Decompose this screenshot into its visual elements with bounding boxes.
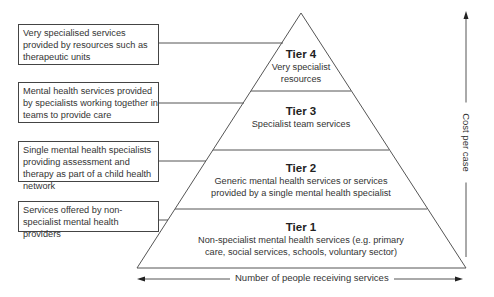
tier-1: Tier 1 Non-specialist mental health serv… xyxy=(176,220,426,258)
tier-4-title: Tier 4 xyxy=(251,47,351,61)
tier-2-desc-line1: Generic mental health services or servic… xyxy=(201,175,401,187)
description-box-tier4: Very specialised services provided by re… xyxy=(18,24,159,65)
tier-3-title: Tier 3 xyxy=(221,104,381,118)
tier-4-desc-line2: resources xyxy=(251,73,351,85)
tier-2-title: Tier 2 xyxy=(201,161,401,175)
x-axis-label: Number of people receiving services xyxy=(230,272,394,283)
tier-4-desc-line1: Very specialist xyxy=(251,61,351,73)
description-text-tier3: Mental health services provided by speci… xyxy=(23,86,158,120)
y-axis-arrow-up-icon xyxy=(464,11,469,19)
tier-4: Tier 4 Very specialist resources xyxy=(251,47,351,85)
tier-2: Tier 2 Generic mental health services or… xyxy=(201,161,401,199)
description-box-tier3: Mental health services provided by speci… xyxy=(18,82,159,123)
y-axis-label: Cost per case xyxy=(461,103,472,183)
tier-2-desc-line2: provided by a single mental health speci… xyxy=(201,187,401,199)
description-box-tier2: Single mental health specialists providi… xyxy=(18,141,159,182)
tier-1-title: Tier 1 xyxy=(176,220,426,234)
tier-1-desc-line1: Non-specialist mental health services (e… xyxy=(176,234,426,246)
x-axis-arrow-left-icon xyxy=(137,277,145,282)
x-axis-arrow-right-icon xyxy=(455,277,463,282)
tier-3-desc: Specialist team services xyxy=(221,118,381,130)
tier-3: Tier 3 Specialist team services xyxy=(221,104,381,130)
description-text-tier4: Very specialised services provided by re… xyxy=(23,28,148,62)
tier-1-desc-line2: care, social services, schools, voluntar… xyxy=(176,246,426,258)
description-box-tier1: Services offered by non-specialist menta… xyxy=(18,201,159,232)
